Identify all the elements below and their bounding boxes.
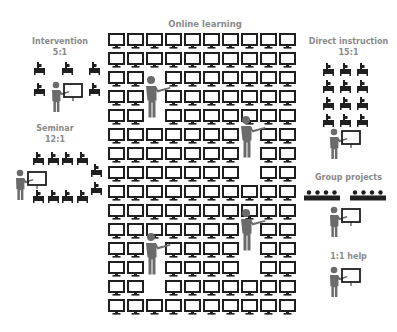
monitor-icon bbox=[184, 33, 201, 50]
monitor-icon bbox=[279, 147, 296, 164]
monitor-icon bbox=[222, 128, 239, 145]
monitor-icon bbox=[127, 71, 144, 88]
monitor-icon bbox=[108, 280, 125, 297]
monitor-icon bbox=[241, 52, 258, 69]
monitor-icon bbox=[222, 261, 239, 278]
monitor-icon bbox=[279, 33, 296, 50]
monitor-icon bbox=[146, 185, 163, 202]
monitor-icon bbox=[146, 33, 163, 50]
desk-icon bbox=[88, 81, 101, 100]
monitor-icon bbox=[146, 166, 163, 183]
monitor-icon bbox=[222, 71, 239, 88]
group-projects-title: Group projects bbox=[300, 173, 397, 183]
monitor-icon bbox=[203, 261, 220, 278]
monitor-icon bbox=[279, 185, 296, 202]
monitor-icon bbox=[127, 185, 144, 202]
monitor-icon bbox=[108, 261, 125, 278]
desk-icon bbox=[33, 81, 46, 100]
monitor-icon bbox=[165, 185, 182, 202]
monitor-icon bbox=[108, 147, 125, 164]
seminar-title: Seminar bbox=[20, 124, 90, 134]
monitor-icon bbox=[279, 242, 296, 259]
monitor-icon bbox=[108, 204, 125, 221]
direct-instruction-title: Direct instruction bbox=[300, 37, 397, 47]
monitor-icon bbox=[260, 90, 277, 107]
monitor-icon bbox=[203, 90, 220, 107]
monitor-icon bbox=[184, 109, 201, 126]
monitor-icon bbox=[108, 128, 125, 145]
monitor-icon bbox=[165, 204, 182, 221]
monitor-icon bbox=[165, 52, 182, 69]
monitor-icon bbox=[184, 166, 201, 183]
desk-icon bbox=[61, 150, 74, 169]
monitor-icon bbox=[222, 242, 239, 259]
monitor-icon bbox=[127, 33, 144, 50]
monitor-icon bbox=[279, 71, 296, 88]
monitor-icon bbox=[108, 185, 125, 202]
monitor-icon bbox=[241, 33, 258, 50]
monitor-icon bbox=[165, 299, 182, 316]
monitor-icon bbox=[203, 204, 220, 221]
monitor-icon bbox=[203, 166, 220, 183]
monitor-icon bbox=[108, 52, 125, 69]
monitor-icon bbox=[108, 109, 125, 126]
monitor-icon bbox=[108, 299, 125, 316]
monitor-icon bbox=[222, 52, 239, 69]
monitor-icon bbox=[184, 185, 201, 202]
monitor-icon bbox=[260, 33, 277, 50]
monitor-icon bbox=[203, 52, 220, 69]
desk-icon bbox=[47, 188, 60, 207]
monitor-icon bbox=[203, 128, 220, 145]
monitor-icon bbox=[279, 204, 296, 221]
monitor-icon bbox=[184, 128, 201, 145]
monitor-icon bbox=[279, 280, 296, 297]
monitor-icon bbox=[279, 299, 296, 316]
one-on-one-title: 1:1 help bbox=[300, 252, 397, 262]
monitor-icon bbox=[127, 109, 144, 126]
monitor-icon bbox=[127, 242, 144, 259]
desk-icon bbox=[61, 188, 74, 207]
desk-icon bbox=[61, 60, 74, 79]
monitor-icon bbox=[108, 90, 125, 107]
monitor-icon bbox=[127, 128, 144, 145]
monitor-icon bbox=[279, 223, 296, 240]
teacher-icon bbox=[143, 232, 173, 281]
monitor-icon bbox=[203, 185, 220, 202]
monitor-icon bbox=[222, 90, 239, 107]
monitor-icon bbox=[260, 299, 277, 316]
desk-icon bbox=[90, 180, 103, 199]
monitor-icon bbox=[127, 280, 144, 297]
teacher-icon bbox=[143, 75, 173, 124]
monitor-icon bbox=[108, 223, 125, 240]
monitor-icon bbox=[279, 261, 296, 278]
monitor-icon bbox=[127, 223, 144, 240]
monitor-icon bbox=[241, 90, 258, 107]
monitor-icon bbox=[165, 128, 182, 145]
monitor-icon bbox=[146, 52, 163, 69]
monitor-icon bbox=[127, 204, 144, 221]
monitor-icon bbox=[222, 33, 239, 50]
monitor-icon bbox=[184, 261, 201, 278]
monitor-icon bbox=[279, 166, 296, 183]
desk-icon bbox=[76, 188, 89, 207]
monitor-icon bbox=[184, 223, 201, 240]
desk-icon bbox=[33, 60, 46, 79]
monitor-icon bbox=[279, 128, 296, 145]
monitor-icon bbox=[127, 166, 144, 183]
monitor-icon bbox=[203, 242, 220, 259]
monitor-icon bbox=[241, 71, 258, 88]
monitor-icon bbox=[279, 109, 296, 126]
monitor-icon bbox=[184, 280, 201, 297]
monitor-icon bbox=[222, 109, 239, 126]
desk-icon bbox=[47, 150, 60, 169]
desk-icon bbox=[88, 60, 101, 79]
monitor-icon bbox=[127, 147, 144, 164]
monitor-icon bbox=[203, 33, 220, 50]
monitor-icon bbox=[222, 204, 239, 221]
monitor-icon bbox=[184, 299, 201, 316]
monitor-icon bbox=[108, 33, 125, 50]
teacher-board-icon bbox=[328, 265, 362, 301]
group-table-icon bbox=[304, 187, 340, 206]
monitor-icon bbox=[165, 33, 182, 50]
teacher-board-icon bbox=[50, 80, 84, 116]
